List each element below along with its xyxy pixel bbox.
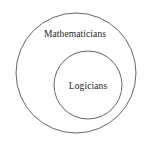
inner-set-label: Logicians [69,81,107,91]
euler-diagram: Mathematicians Logicians [0,0,153,149]
outer-set-label: Mathematicians [44,29,106,39]
euler-diagram-canvas [0,0,153,149]
